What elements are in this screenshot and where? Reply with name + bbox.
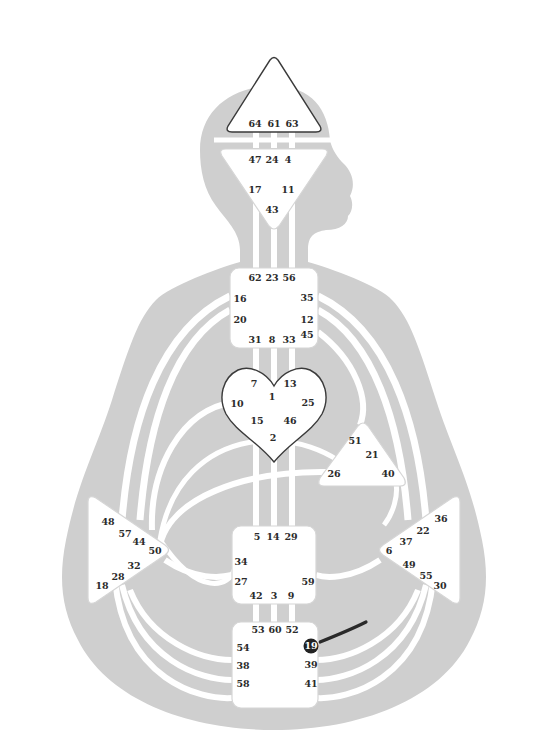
center-throat[interactable]: 62 23 56 16 35 20 12 45 31 8 33 [230,268,318,348]
gate-14[interactable]: 14 [266,531,280,542]
gate-35[interactable]: 35 [300,292,313,303]
gate-4[interactable]: 4 [285,154,292,165]
gate-19[interactable]: 19 [304,640,318,651]
gate-26[interactable]: 26 [327,468,341,479]
gate-38[interactable]: 38 [236,660,250,671]
gate-49[interactable]: 49 [402,559,416,570]
gate-64[interactable]: 64 [248,118,262,129]
gate-42[interactable]: 42 [249,590,262,601]
gate-29[interactable]: 29 [284,531,298,542]
gate-40[interactable]: 40 [381,468,395,479]
gate-43[interactable]: 43 [265,204,278,215]
gate-24[interactable]: 24 [265,154,279,165]
bodygraph-diagram: 64 61 63 47 24 4 17 11 43 62 23 56 16 35… [0,0,539,753]
gate-28[interactable]: 28 [111,571,125,582]
gate-7[interactable]: 7 [251,378,258,389]
gate-31[interactable]: 31 [248,334,261,345]
gate-27[interactable]: 27 [234,576,247,587]
gate-52[interactable]: 52 [285,624,298,635]
gate-22[interactable]: 22 [416,525,429,536]
gate-36[interactable]: 36 [434,513,448,524]
gate-39[interactable]: 39 [304,659,318,670]
gate-20[interactable]: 20 [233,314,247,325]
gate-54[interactable]: 54 [236,642,250,653]
gate-10[interactable]: 10 [230,398,244,409]
gate-18[interactable]: 18 [95,580,109,591]
gate-32[interactable]: 32 [127,560,140,571]
gate-6[interactable]: 6 [386,545,393,556]
gate-9[interactable]: 9 [288,590,295,601]
gate-48[interactable]: 48 [101,516,115,527]
gate-34[interactable]: 34 [234,556,248,567]
gate-30[interactable]: 30 [433,580,447,591]
gate-56[interactable]: 56 [282,272,296,283]
gate-53[interactable]: 53 [251,624,264,635]
gate-25[interactable]: 25 [301,397,314,408]
gate-57[interactable]: 57 [118,528,131,539]
gate-2[interactable]: 2 [270,432,277,443]
gate-58[interactable]: 58 [236,678,250,689]
gate-45[interactable]: 45 [300,329,313,340]
gate-11[interactable]: 11 [281,184,294,195]
gate-59[interactable]: 59 [301,576,315,587]
gate-15[interactable]: 15 [250,415,263,426]
gate-8[interactable]: 8 [269,334,276,345]
gate-41[interactable]: 41 [304,678,317,689]
gate-44[interactable]: 44 [132,536,146,547]
gate-62[interactable]: 62 [248,272,261,283]
gate-37[interactable]: 37 [399,536,412,547]
gate-60[interactable]: 60 [268,624,282,635]
gate-55[interactable]: 55 [419,570,432,581]
gate-5[interactable]: 5 [254,531,261,542]
gate-12[interactable]: 12 [300,314,313,325]
center-root[interactable]: 53 60 52 54 19 38 39 58 41 [232,622,319,708]
gate-16[interactable]: 16 [233,293,247,304]
gate-61[interactable]: 61 [267,118,280,129]
center-sacral[interactable]: 5 14 29 34 27 59 42 3 9 [232,526,316,604]
gate-13[interactable]: 13 [283,378,296,389]
gate-3[interactable]: 3 [271,590,278,601]
gate-1[interactable]: 1 [269,391,276,402]
gate-50[interactable]: 50 [148,545,162,556]
gate-47[interactable]: 47 [248,154,261,165]
gate-33[interactable]: 33 [282,334,295,345]
gate-63[interactable]: 63 [285,118,298,129]
gate-46[interactable]: 46 [283,415,297,426]
gate-21[interactable]: 21 [365,449,378,460]
gate-23[interactable]: 23 [265,272,278,283]
gate-51[interactable]: 51 [348,435,361,446]
gate-17[interactable]: 17 [248,184,261,195]
